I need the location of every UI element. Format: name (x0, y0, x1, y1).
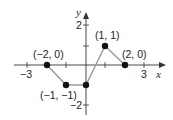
y-axis-arrow-icon (83, 12, 89, 19)
point-label-neg2-0: (−2, 0) (33, 48, 64, 60)
point-label-2-0: (2, 0) (122, 48, 147, 60)
x-tick-label-neg3: −3 (20, 68, 32, 80)
point-neg2-0 (44, 62, 50, 68)
point-label-neg1-neg1: (−1, −1) (40, 89, 77, 101)
axes (14, 12, 166, 115)
function-graph: −3 3 2 −2 x y (−2, 0) (−1, −1) (1, 1) (2… (0, 0, 173, 120)
point-1-1 (102, 43, 108, 49)
point-2-0 (122, 62, 128, 68)
y-axis-label: y (75, 6, 81, 18)
x-axis-label: x (155, 68, 161, 80)
point-neg1-neg1 (63, 82, 69, 88)
x-tick-label-3: 3 (141, 68, 147, 80)
y-tick-label-2: 2 (76, 19, 82, 31)
point-0-neg1 (83, 82, 89, 88)
point-label-1-1: (1, 1) (95, 29, 120, 41)
